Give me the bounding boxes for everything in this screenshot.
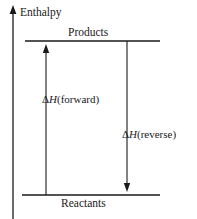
delta-h-reverse-arrowhead-icon [124,183,130,192]
products-level-label: Products [68,27,108,39]
enthalpy-axis-label: Enthalpy [20,7,62,19]
delta-h-reverse-variable: H [129,128,137,140]
reactants-level-label: Reactants [61,198,106,210]
delta-h-reverse-label: ΔH(reverse) [122,129,176,140]
delta-h-forward-direction: (forward) [57,93,99,105]
delta-h-forward-arrow [43,44,49,195]
delta-h-reverse-arrow [124,41,130,192]
enthalpy-diagram: Enthalpy Products Reactants ΔH(forward) … [0,0,197,219]
delta-h-forward-label: ΔH(forward) [42,94,99,105]
delta-h-forward-variable: H [49,93,57,105]
enthalpy-axis-arrowhead-icon [10,5,17,14]
enthalpy-axis [10,5,17,219]
delta-h-reverse-direction: (reverse) [137,128,176,140]
delta-h-forward-arrowhead-icon [43,44,49,53]
